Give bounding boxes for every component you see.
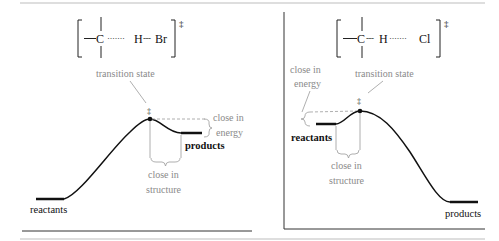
right-energy-note-2: energy [294,78,321,89]
left-structure-note-1: close in [148,169,179,180]
right-energy-note-1: close in [290,64,321,75]
left-products-label: products [185,140,224,151]
right-structure-note-2: structure [329,175,365,186]
right-panel: C --- H ······· Cl ‡ close in energy tra… [284,12,485,229]
left-energy-note-2: energy [216,127,243,138]
left-ts-marker: ‡ [147,107,151,116]
right-bond-c-h: --- [366,33,374,43]
left-panel: C ······· H --- Br ‡ transition state ‡ … [22,17,252,231]
left-bond-c-h: ······· [107,33,125,43]
right-reactants-label: reactants [291,132,332,143]
right-atom-h: H [379,32,388,46]
left-atom-c: C [96,32,104,46]
right-double-dagger: ‡ [444,19,449,29]
right-ts-leader-line [368,81,383,93]
left-reactants-label: reactants [30,204,67,215]
left-energy-brace [204,119,212,137]
right-products-label: products [445,208,481,219]
left-atom-br: Br [155,32,167,46]
left-ts-leader-line [130,81,146,103]
left-transition-state-label: transition state [96,68,155,79]
left-double-dagger: ‡ [179,19,184,29]
left-structure-note-2: structure [146,184,182,195]
right-structure-brace [337,150,359,158]
left-ts-point [148,117,153,122]
left-structure-brace [151,158,180,166]
left-atom-h: H [134,32,143,46]
right-atom-c: C [357,32,365,46]
right-bond-h-cl: ······· [389,33,407,43]
right-energy-leader-line [302,91,310,112]
right-atom-cl: Cl [419,32,431,46]
right-energy-dashed-line [310,111,358,112]
right-structure-note-1: close in [331,160,362,171]
left-energy-note-1: close in [213,112,244,123]
right-ts-point [358,109,363,114]
right-ts-marker: ‡ [357,97,361,106]
left-bond-h-br: --- [143,33,151,43]
right-energy-curve [336,111,450,202]
energy-diagram-figure: C ······· H --- Br ‡ transition state ‡ … [0,0,499,241]
right-energy-brace [301,112,310,126]
right-transition-state-label: transition state [355,68,414,79]
